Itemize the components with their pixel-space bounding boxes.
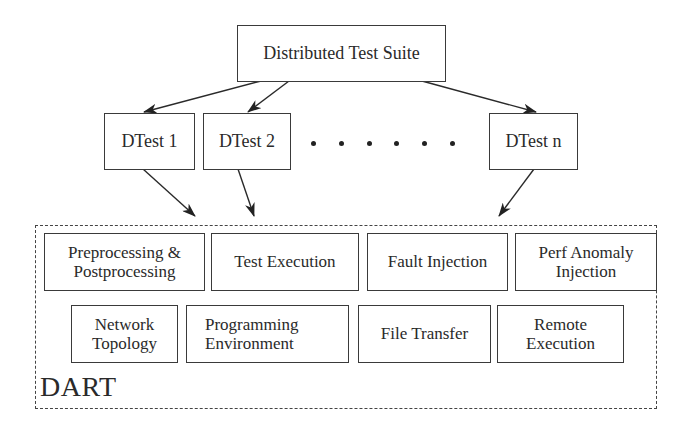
- component-label-line2: Injection: [539, 262, 634, 281]
- component-label-line2: Environment: [205, 334, 299, 353]
- component-label-line1: Network: [92, 315, 157, 334]
- component-label-line2: Execution: [526, 334, 595, 353]
- test-node-n: DTest n: [489, 113, 578, 170]
- ellipsis-dot: [311, 141, 316, 146]
- component-programming-environment: Programming Environment: [186, 305, 349, 363]
- component-label: File Transfer: [381, 324, 468, 343]
- ellipsis-dot: [422, 141, 427, 146]
- component-file-transfer: File Transfer: [358, 305, 491, 363]
- component-label-line1: Remote: [526, 315, 595, 334]
- test-node-1: DTest 1: [104, 113, 195, 170]
- test-node-2: DTest 2: [203, 113, 291, 170]
- component-fault-injection: Fault Injection: [367, 233, 508, 291]
- component-label-line1: Programming: [205, 315, 299, 334]
- root-node-distributed-test-suite: Distributed Test Suite: [237, 25, 446, 82]
- component-remote-execution: Remote Execution: [497, 305, 624, 363]
- root-node-label: Distributed Test Suite: [263, 43, 419, 63]
- component-perf-anomaly-injection: Perf Anomaly Injection: [515, 233, 657, 291]
- component-label-line1: Preprocessing &: [68, 243, 181, 262]
- test-node-label: DTest n: [505, 131, 561, 151]
- edge-root-to-dtest1: [144, 81, 261, 112]
- edge-dtest1-to-dart: [143, 169, 195, 216]
- dart-label: DART: [40, 371, 117, 403]
- test-node-label: DTest 1: [121, 131, 177, 151]
- test-node-label: DTest 2: [219, 131, 275, 151]
- component-network-topology: Network Topology: [71, 305, 178, 363]
- ellipsis-dot: [394, 141, 399, 146]
- component-label: Test Execution: [234, 252, 335, 271]
- edge-dtest2-to-dart: [238, 169, 254, 216]
- edge-dtestn-to-dart: [499, 169, 534, 216]
- ellipsis-dot: [339, 141, 344, 146]
- edge-root-to-dtestn: [422, 81, 536, 112]
- component-test-execution: Test Execution: [211, 233, 359, 291]
- component-label-line2: Topology: [92, 334, 157, 353]
- ellipsis-dot: [450, 141, 455, 146]
- edge-root-to-dtest2: [248, 81, 289, 112]
- component-label: Fault Injection: [388, 252, 488, 271]
- component-preprocessing-postprocessing: Preprocessing & Postprocessing: [44, 233, 205, 291]
- component-label-line1: Perf Anomaly: [539, 243, 634, 262]
- ellipsis-dot: [367, 141, 372, 146]
- component-label-line2: Postprocessing: [68, 262, 181, 281]
